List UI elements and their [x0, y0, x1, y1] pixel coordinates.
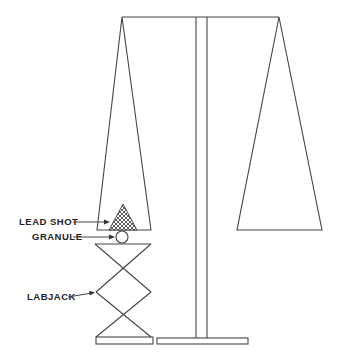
right-pan — [237, 17, 322, 230]
labjack — [95, 244, 153, 344]
label-labjack: LABJACK — [27, 291, 95, 302]
labjack-base — [96, 337, 153, 344]
left-pan — [97, 17, 151, 230]
pillar — [196, 17, 207, 338]
granule — [116, 231, 128, 243]
pillar-base — [157, 338, 248, 344]
label-granule: GRANULE — [32, 231, 115, 242]
lead-shot-pile — [109, 204, 137, 230]
svg-text:LEAD SHOT: LEAD SHOT — [19, 216, 78, 227]
balance-diagram: LEAD SHOT GRANULE LABJACK — [0, 0, 342, 363]
label-lead-shot: LEAD SHOT — [19, 216, 110, 227]
